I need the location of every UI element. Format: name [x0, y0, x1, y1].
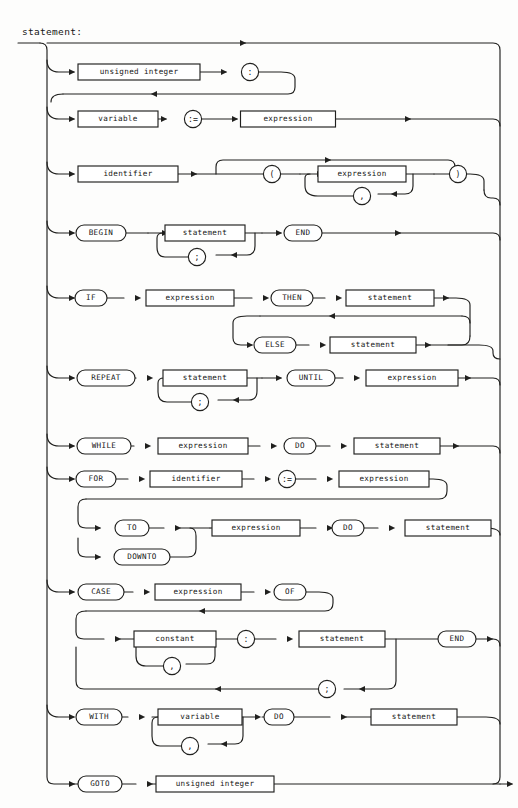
token-statement-else-label: statement	[351, 340, 395, 349]
token-variable-assign-label: variable	[98, 114, 137, 123]
token-colon-label-label: :	[248, 67, 253, 77]
token-statement-compound-label: statement	[183, 228, 227, 237]
token-comma-case-label: ,	[170, 661, 175, 671]
token-expression-assign-label: expression	[263, 114, 312, 123]
token-statement-with-label: statement	[392, 712, 436, 721]
token-comma-with-label: ,	[188, 741, 193, 751]
token-expression-for-start-label: expression	[359, 474, 408, 483]
token-downto-label: DOWNTO	[127, 552, 157, 561]
token-end-compound-label: END	[296, 228, 311, 237]
token-assign-op-label: :=	[188, 114, 198, 124]
token-colon-case-label: :	[244, 634, 249, 644]
token-assign-for-label: :=	[282, 474, 292, 484]
token-expression-until-label: expression	[387, 373, 436, 382]
token-unsigned-integer-goto-label: unsigned integer	[176, 779, 255, 788]
token-comma-args-label: ,	[360, 191, 365, 201]
token-semicolon-case-label: ;	[325, 684, 330, 694]
token-to-label: TO	[127, 523, 137, 532]
token-if-label: IF	[86, 293, 96, 302]
token-rparen-label: )	[456, 169, 461, 179]
token-expression-arg-label: expression	[337, 169, 386, 178]
diagram-nodes: unsigned integer:variable:=expressionide…	[75, 63, 491, 792]
token-expression-for-end-label: expression	[231, 523, 280, 532]
token-repeat-label: REPEAT	[91, 373, 121, 382]
token-expression-while-label: expression	[178, 441, 227, 450]
token-lparen-label: (	[270, 169, 275, 179]
token-identifier-for-label: identifier	[171, 474, 220, 483]
token-statement-case-label: statement	[320, 634, 364, 643]
token-begin-label: BEGIN	[89, 228, 114, 237]
token-statement-while-label: statement	[375, 441, 419, 450]
token-do-for-label: DO	[343, 523, 353, 532]
token-while-label: WHILE	[92, 441, 117, 450]
token-statement-repeat-label: statement	[183, 373, 227, 382]
token-semicolon-repeat-label: ;	[198, 397, 203, 407]
diagram-page: statement: unsigned integer:variable:=ex…	[0, 0, 518, 808]
token-else-label: ELSE	[265, 340, 285, 349]
token-then-label: THEN	[282, 293, 302, 302]
token-semicolon-compound-label: ;	[195, 252, 200, 262]
token-variable-with-label: variable	[180, 712, 219, 721]
token-for-label: FOR	[89, 474, 104, 483]
token-statement-for-label: statement	[426, 523, 470, 532]
token-end-case-label: END	[450, 634, 465, 643]
token-do-while-label: DO	[295, 441, 305, 450]
token-statement-then-label: statement	[368, 293, 412, 302]
token-until-label: UNTIL	[299, 373, 324, 382]
railroad-diagram: unsigned integer:variable:=expressionide…	[0, 0, 518, 808]
token-expression-if-label: expression	[165, 293, 214, 302]
token-with-label: WITH	[89, 712, 109, 721]
diagram-wires	[18, 40, 513, 787]
token-goto-label: GOTO	[90, 779, 110, 788]
token-of-label: OF	[285, 587, 295, 596]
token-unsigned-integer-1-label: unsigned integer	[100, 67, 179, 76]
token-case-label: CASE	[91, 587, 111, 596]
token-do-with-label: DO	[274, 712, 284, 721]
token-constant-case-label: constant	[155, 634, 194, 643]
token-expression-case-label: expression	[173, 587, 222, 596]
token-identifier-call-label: identifier	[103, 169, 152, 178]
